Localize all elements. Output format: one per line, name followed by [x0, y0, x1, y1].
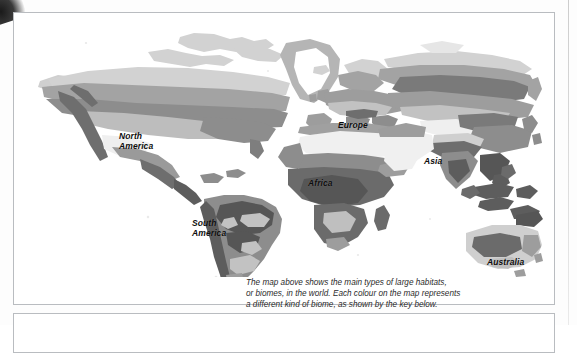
caption-line-2: or biomes, in the world. Each colour on …: [246, 288, 506, 299]
world-map-svg: [28, 19, 543, 277]
caption-line-1: The map above shows the main types of la…: [246, 277, 506, 288]
map-caption: The map above shows the main types of la…: [246, 277, 506, 310]
world-biome-map: North America South America Europe Asia …: [28, 19, 543, 277]
map-label-europe: Europe: [338, 121, 368, 131]
map-label-australia: Australia: [487, 258, 524, 268]
key-panel: [13, 313, 555, 353]
map-label-north-america: North America: [119, 132, 153, 151]
region-australia: [466, 225, 543, 277]
caption-line-3: a different kind of biome, as shown by t…: [246, 299, 506, 310]
region-asia: [378, 41, 542, 189]
region-maritime-southeast-asia: [461, 164, 543, 227]
map-panel: North America South America Europe Asia …: [13, 12, 555, 305]
map-label-africa: Africa: [308, 179, 333, 189]
map-label-south-america: South America: [192, 219, 226, 238]
map-label-asia: Asia: [424, 157, 442, 167]
scan-edge-line: [568, 0, 569, 325]
